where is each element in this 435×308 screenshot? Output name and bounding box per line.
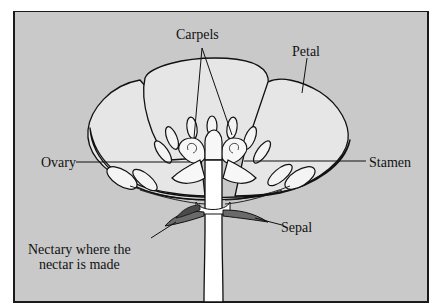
label-nectary-line2: nectar is made <box>28 257 131 272</box>
label-nectary-line1: Nectary where the <box>28 242 131 257</box>
label-ovary: Ovary <box>41 155 76 170</box>
label-carpels: Carpels <box>176 27 219 42</box>
label-stamen: Stamen <box>369 155 411 170</box>
sepal-right <box>223 210 268 222</box>
label-petal: Petal <box>292 44 320 59</box>
label-sepal: Sepal <box>281 220 312 235</box>
label-nectary: Nectary where the nectar is made <box>28 242 131 272</box>
stem <box>204 160 223 302</box>
